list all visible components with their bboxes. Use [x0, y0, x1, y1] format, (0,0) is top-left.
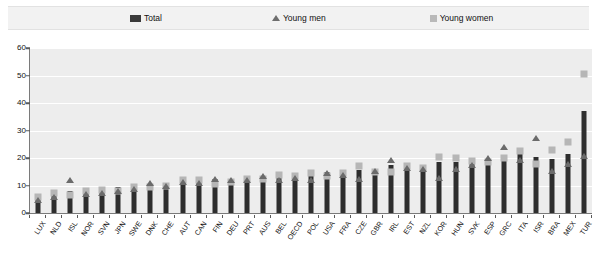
- marker-young-men: [179, 179, 187, 185]
- x-tick-mark: [190, 215, 191, 218]
- x-tick-mark: [302, 215, 303, 218]
- legend-item-young-men: Young men: [272, 14, 326, 23]
- x-tick-mark: [575, 215, 576, 218]
- x-tick-label: ISR: [532, 220, 545, 234]
- marker-young-women: [356, 163, 363, 170]
- marker-young-men: [500, 144, 508, 150]
- marker-young-women: [500, 155, 507, 162]
- legend-label-young-men: Young men: [283, 14, 326, 23]
- marker-young-men: [114, 188, 122, 194]
- bar-total: [437, 162, 442, 213]
- bar-total: [421, 170, 426, 213]
- x-tick-label: AUT: [177, 220, 191, 236]
- x-tick-mark: [559, 215, 560, 218]
- bar-group: [271, 48, 287, 213]
- bar-group: [399, 48, 415, 213]
- bar-group: [94, 48, 110, 213]
- x-tick-label: KOR: [434, 220, 449, 237]
- bar-group: [544, 48, 560, 213]
- marker-young-men: [435, 175, 443, 181]
- marker-young-men: [468, 162, 476, 168]
- x-tick-label: FRA: [338, 220, 352, 236]
- bar-group: [415, 48, 431, 213]
- bar-group: [239, 48, 255, 213]
- x-tick-mark: [382, 215, 383, 218]
- x-tick-label: CAN: [193, 220, 208, 237]
- bar-total: [469, 161, 474, 213]
- x-tick-mark: [479, 215, 480, 218]
- bar-group: [480, 48, 496, 213]
- x-tick-label: DEU: [225, 220, 240, 237]
- plot-area: 0102030405060: [29, 48, 592, 214]
- x-tick-mark: [366, 215, 367, 218]
- y-tick-label: 20: [17, 154, 26, 162]
- marker-young-women: [452, 155, 459, 162]
- x-tick-mark: [398, 215, 399, 218]
- x-tick-mark: [430, 215, 431, 218]
- x-tick-label: ISL: [67, 220, 79, 233]
- bar-group: [576, 48, 592, 213]
- marker-young-men: [484, 155, 492, 161]
- marker-young-men: [387, 157, 395, 163]
- x-tick-mark: [446, 215, 447, 218]
- y-tick-label: 40: [17, 99, 26, 107]
- bar-total: [373, 169, 378, 213]
- x-tick-mark: [334, 215, 335, 218]
- x-tick-mark: [495, 215, 496, 218]
- bar-total: [180, 181, 185, 213]
- marker-young-women: [67, 192, 74, 199]
- x-tick-mark: [414, 215, 415, 218]
- x-axis-labels: LUXNLDISLNORSVNJPNSWEDNKCHEAUTCANFINDEUP…: [29, 215, 591, 261]
- marker-young-men: [307, 177, 315, 183]
- x-tick-label: NZL: [419, 220, 433, 235]
- x-tick-label: HUN: [450, 220, 465, 237]
- marker-young-men: [34, 197, 42, 203]
- x-tick-mark: [93, 215, 94, 218]
- bar-group: [142, 48, 158, 213]
- chart-plot-wrapper: 0102030405060 LUXNLDISLNORSVNJPNSWEDNKCH…: [0, 34, 597, 261]
- y-tick-label: 10: [17, 182, 26, 190]
- x-tick-mark: [350, 215, 351, 218]
- bar-series-group: [30, 48, 592, 213]
- bar-group: [62, 48, 78, 213]
- bar-group: [335, 48, 351, 213]
- y-tick-label: 0: [22, 209, 26, 217]
- bar-group: [207, 48, 223, 213]
- marker-young-men: [452, 166, 460, 172]
- chart-root: Total Young men Young women 010203040506…: [0, 0, 597, 261]
- marker-young-women: [516, 148, 523, 155]
- x-tick-mark: [174, 215, 175, 218]
- x-tick-label: BRA: [546, 220, 560, 236]
- x-tick-label: NOR: [80, 220, 95, 237]
- bar-group: [223, 48, 239, 213]
- marker-young-men: [50, 194, 58, 200]
- x-tick-mark: [125, 215, 126, 218]
- x-tick-label: CZE: [354, 220, 368, 236]
- bar-total: [517, 154, 522, 213]
- legend-item-total: Total: [130, 14, 162, 23]
- x-tick-mark: [61, 215, 62, 218]
- x-tick-mark: [543, 215, 544, 218]
- x-tick-label: JPN: [114, 220, 128, 235]
- x-tick-mark: [270, 215, 271, 218]
- bar-group: [560, 48, 576, 213]
- x-tick-label: TUR: [578, 220, 592, 236]
- bar-total: [405, 164, 410, 214]
- x-tick-label: MEX: [562, 220, 577, 237]
- bar-group: [464, 48, 480, 213]
- x-tick-label: LUX: [33, 220, 47, 236]
- x-tick-mark: [77, 215, 78, 218]
- bar-total: [581, 111, 586, 213]
- bar-group: [303, 48, 319, 213]
- bar-group: [191, 48, 207, 213]
- marker-young-men: [371, 168, 379, 174]
- marker-young-men: [339, 172, 347, 178]
- marker-young-men: [211, 176, 219, 182]
- marker-young-women: [564, 138, 571, 145]
- bar-group: [158, 48, 174, 213]
- bar-group: [367, 48, 383, 213]
- x-tick-label: BEL: [274, 220, 288, 235]
- x-tick-label: DNK: [145, 220, 160, 237]
- marker-young-men: [323, 170, 331, 176]
- x-tick-label: PRT: [242, 220, 256, 236]
